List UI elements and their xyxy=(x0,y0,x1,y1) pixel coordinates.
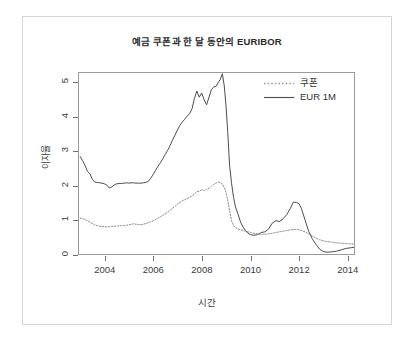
y-axis-tick-mark xyxy=(73,82,78,83)
y-axis-tick-label: 5 xyxy=(59,73,70,89)
y-axis-tick-label: 3 xyxy=(59,142,70,158)
legend-key-solid-icon xyxy=(264,96,294,98)
legend-label-coupon: 쿠폰 xyxy=(300,76,318,90)
y-axis-tick-mark xyxy=(73,151,78,152)
y-axis-tick-label: 1 xyxy=(59,211,70,227)
y-axis-tick-label: 0 xyxy=(59,246,70,262)
x-axis-tick-label: 2004 xyxy=(85,264,125,275)
y-axis-tick-mark xyxy=(73,186,78,187)
y-axis-tick-mark xyxy=(73,255,78,256)
x-axis-tick-label: 2008 xyxy=(182,264,222,275)
x-axis-tick-mark xyxy=(348,256,349,261)
y-axis-tick-label: 4 xyxy=(59,107,70,123)
legend-key-dotted-icon xyxy=(264,82,294,84)
x-axis-tick-label: 2006 xyxy=(133,264,173,275)
x-axis-tick-mark xyxy=(105,256,106,261)
x-axis-tick-mark xyxy=(251,256,252,261)
x-axis-tick-mark xyxy=(202,256,203,261)
x-axis-label: 시간 xyxy=(0,295,414,309)
x-axis-tick-mark xyxy=(153,256,154,261)
x-axis-tick-label: 2014 xyxy=(328,264,368,275)
chart-title: 예금 쿠폰과 한 달 동안의 EURIBOR xyxy=(0,34,414,48)
x-axis-tick-label: 2010 xyxy=(231,264,271,275)
x-axis-tick-mark xyxy=(299,256,300,261)
legend-item-coupon: 쿠폰 xyxy=(264,76,350,90)
x-axis-tick-label: 2012 xyxy=(279,264,319,275)
legend-label-eur-1m: EUR 1M xyxy=(300,90,336,104)
chart-screenshot: 예금 쿠폰과 한 달 동안의 EURIBOR 이자율 시간 쿠폰 EUR 1M xyxy=(0,0,414,340)
series-line-coupon xyxy=(80,182,353,244)
legend-item-eur-1m: EUR 1M xyxy=(264,90,350,104)
y-axis-tick-mark xyxy=(73,117,78,118)
y-axis-tick-mark xyxy=(73,220,78,221)
y-axis-tick-label: 2 xyxy=(59,176,70,192)
y-axis-label: 이자율 xyxy=(39,137,52,177)
chart-legend: 쿠폰 EUR 1M xyxy=(264,76,350,106)
